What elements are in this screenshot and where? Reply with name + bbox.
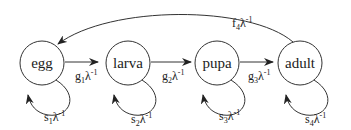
edge-label: s3λ-1 — [219, 108, 240, 125]
edge-label: s1λ-1 — [44, 109, 65, 126]
node-larva: larva — [106, 41, 150, 85]
self-loop-larva: s2λ-1 — [114, 80, 156, 128]
life-cycle-diagram: egg larva pupa adult g1λ-1 g2λ-1 g3λ-1 f… — [0, 0, 351, 130]
edge-label: f4λ-1 — [232, 15, 253, 32]
edge-label: g1λ-1 — [75, 68, 98, 85]
edge-adult-egg: f4λ-1 — [58, 14, 293, 44]
node-adult: adult — [278, 41, 322, 85]
node-egg: egg — [20, 41, 64, 85]
edge-label: g3λ-1 — [248, 68, 271, 85]
self-loop-pupa: s3λ-1 — [203, 80, 245, 125]
edge-egg-larva: g1λ-1 — [65, 62, 98, 85]
edge-label: s2λ-1 — [131, 111, 152, 128]
node-label: adult — [285, 55, 316, 71]
self-loop-egg: s1λ-1 — [28, 80, 70, 126]
edge-larva-pupa: g2λ-1 — [151, 62, 191, 85]
edge-label: s4λ-1 — [305, 111, 326, 128]
edge-pupa-adult: g3λ-1 — [240, 62, 273, 85]
edge-label: g2λ-1 — [162, 68, 185, 85]
node-pupa: pupa — [195, 41, 239, 85]
node-label: larva — [113, 55, 143, 71]
node-label: pupa — [202, 55, 232, 71]
self-loop-adult: s4λ-1 — [286, 80, 328, 128]
node-label: egg — [31, 55, 53, 71]
